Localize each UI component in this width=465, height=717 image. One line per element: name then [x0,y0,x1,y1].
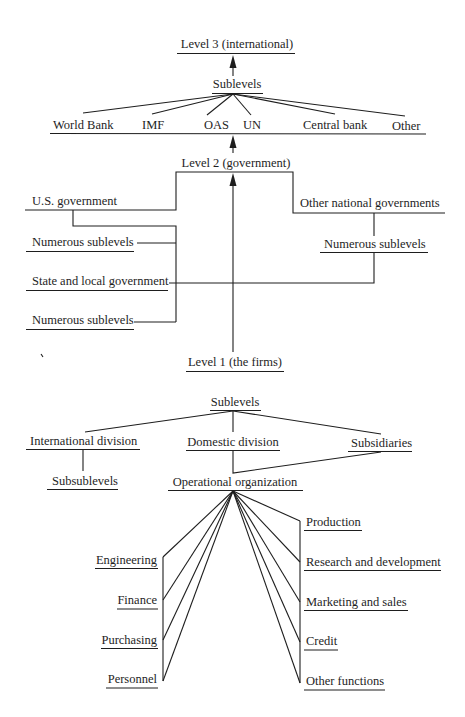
firms-sublevels-label: Sublevels [211,395,260,409]
function-research-development: Research and development [306,555,441,569]
operational-organization-label: Operational organization [173,475,298,489]
level-2-label: Level 2 (government) [182,156,291,170]
edge-sublevels-international-division [85,411,233,432]
edge-operational-production [233,491,300,521]
edge-operational-personnel [163,491,233,681]
edge-operational-research-development [233,491,300,562]
edge-domestic-subsidiaries-to-operational [233,451,381,473]
member-un: UN [243,118,261,132]
us-numerous-sublevels-1-label: Numerous sublevels [32,235,134,249]
domestic-division-label: Domestic division [187,435,279,449]
us-government-label: U.S. government [32,194,118,208]
intl-sublevels-label: Sublevels [213,77,262,91]
function-personnel: Personnel [108,672,158,686]
subsidiaries-label: Subsidiaries [351,436,412,450]
function-marketing-sales: Marketing and sales [306,595,407,609]
arrow-up-icon [230,55,237,68]
member-other: Other [392,119,421,133]
other-national-governments-label: Other national governments [300,196,440,210]
international-division-label: International division [30,434,138,448]
us-numerous-sublevels-2-label: Numerous sublevels [32,313,134,327]
edge-operational-other-functions [233,491,300,683]
function-credit: Credit [306,634,338,648]
stray-mark [41,354,43,357]
edge-sublevels-other [233,94,405,116]
function-production: Production [306,515,362,529]
member-oas: OAS [204,118,229,132]
level-1-group: Level 1 (the firms) Sublevels Internatio… [26,355,441,690]
state-local-government-label: State and local government [32,274,169,288]
edge-state-local-to-other-sublevels [169,253,374,283]
level-2-group: Level 2 (government) U.S. government Oth… [25,135,445,357]
other-numerous-sublevels-label: Numerous sublevels [324,237,426,251]
edge-sublevels-central-bank [233,94,335,114]
arrow-up-icon [230,173,237,186]
international-members-baseline [50,134,426,135]
level-3-label: Level 3 (international) [181,37,293,51]
organization-levels-diagram: Level 3 (international) Sublevels World … [0,0,465,717]
edge-operational-purchasing [163,491,233,640]
edge-sublevels-subsidiaries [233,411,381,434]
member-world-bank: World Bank [53,118,114,132]
function-other-functions: Other functions [306,674,384,688]
us-gov-subtree-line [73,210,176,322]
edge-operational-finance [163,491,233,600]
edge-operational-engineering [163,491,233,557]
edge-operational-credit [233,491,300,642]
function-finance: Finance [117,593,157,607]
subsublevels-label: Subsublevels [52,474,118,488]
edge-sublevels-world-bank [83,94,233,113]
member-imf: IMF [142,118,164,132]
member-central-bank: Central bank [303,118,368,132]
function-purchasing: Purchasing [101,633,157,647]
level-1-label: Level 1 (the firms) [188,355,282,369]
level-3-group: Level 3 (international) Sublevels World … [50,37,426,134]
function-engineering: Engineering [96,553,158,567]
